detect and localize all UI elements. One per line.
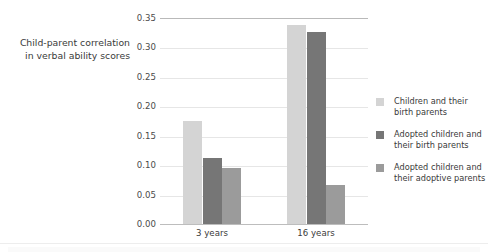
chart-legend: Children and theirbirth parentsAdopted c… bbox=[376, 96, 488, 195]
y-axis-tick-label: 0.25 bbox=[137, 72, 156, 82]
bar bbox=[183, 121, 202, 224]
y-axis-tick-label: 0.20 bbox=[137, 101, 156, 111]
bar-chart: Child-parent correlation in verbal abili… bbox=[0, 0, 488, 252]
gridline bbox=[160, 107, 368, 108]
legend-item: Adopted children andtheir birth parents bbox=[376, 129, 488, 151]
bar bbox=[326, 185, 345, 224]
y-axis-tick-label: 0.10 bbox=[137, 160, 156, 170]
y-axis-tick-labels: 0.000.050.100.150.200.250.300.35 bbox=[128, 12, 156, 224]
gridline bbox=[160, 48, 368, 49]
gridline bbox=[160, 78, 368, 79]
y-axis-title: Child-parent correlation in verbal abili… bbox=[4, 36, 130, 62]
y-axis-tick-label: 0.05 bbox=[137, 190, 156, 200]
y-axis-tick-label: 0.35 bbox=[137, 13, 156, 23]
bar bbox=[287, 25, 306, 224]
legend-swatch-icon bbox=[376, 164, 384, 172]
bottom-band bbox=[8, 247, 480, 252]
legend-swatch-icon bbox=[376, 131, 384, 139]
bar bbox=[222, 168, 241, 225]
y-axis-tick-label: 0.30 bbox=[137, 42, 156, 52]
bar bbox=[307, 32, 326, 224]
x-axis-tick-label: 16 years bbox=[297, 228, 334, 238]
legend-swatch-icon bbox=[376, 98, 384, 106]
bar bbox=[203, 158, 222, 224]
legend-item-label: Children and theirbirth parents bbox=[394, 96, 488, 118]
y-axis-tick-label: 0.00 bbox=[137, 219, 156, 229]
legend-item: Children and theirbirth parents bbox=[376, 96, 488, 118]
legend-item-label: Adopted children andtheir adoptive paren… bbox=[394, 162, 488, 184]
legend-item-label: Adopted children andtheir birth parents bbox=[394, 129, 488, 151]
legend-item: Adopted children andtheir adoptive paren… bbox=[376, 162, 488, 184]
bottom-divider bbox=[0, 243, 488, 244]
y-axis-title-line1: Child-parent correlation bbox=[20, 37, 130, 48]
plot-area bbox=[160, 18, 368, 225]
y-axis-tick-label: 0.15 bbox=[137, 131, 156, 141]
x-axis-tick-label: 3 years bbox=[196, 228, 228, 238]
y-axis-title-line2: in verbal ability scores bbox=[25, 50, 130, 61]
